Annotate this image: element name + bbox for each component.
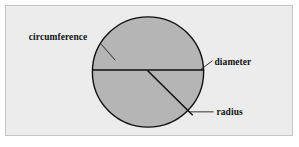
label-radius: radius bbox=[217, 107, 243, 117]
diagram-panel: circumference diameter radius bbox=[5, 5, 293, 136]
figure-root: circumference diameter radius bbox=[0, 0, 299, 147]
circle-diagram: circumference diameter radius bbox=[6, 6, 292, 135]
label-circumference: circumference bbox=[29, 32, 87, 42]
label-diameter: diameter bbox=[215, 57, 252, 67]
